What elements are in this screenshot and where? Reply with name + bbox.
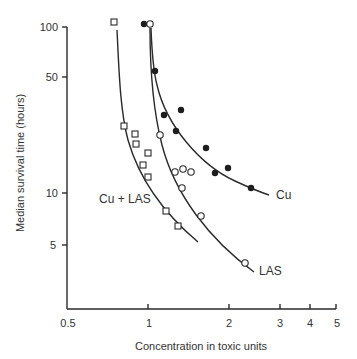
las-curve — [150, 28, 254, 272]
x-axis-title: Concentration in toxic units — [135, 340, 268, 352]
cu-las-label: Cu + LAS — [99, 192, 151, 206]
y-axis-title: Median survival time (hours) — [14, 94, 26, 232]
x-tick-label-2: 2 — [226, 317, 232, 329]
y-tick-label-50: 50 — [46, 71, 58, 83]
x-tick-label-5: 5 — [334, 317, 340, 329]
y-tick-label-100: 100 — [40, 21, 58, 33]
cu-points — [141, 21, 254, 191]
las-label: LAS — [259, 264, 282, 278]
y-tick-label-10: 10 — [46, 187, 58, 199]
x-ticks — [148, 304, 336, 309]
y-ticks — [62, 27, 67, 245]
x-tick-label-4: 4 — [307, 317, 313, 329]
x-tick-label-0.5: 0.5 — [60, 317, 75, 329]
cu-curve — [151, 28, 269, 195]
y-tick-label-5: 5 — [50, 239, 56, 251]
x-tick-label-3: 3 — [277, 317, 283, 329]
cu-label: Cu — [276, 188, 291, 202]
x-tick-label-1: 1 — [146, 317, 152, 329]
survival-chart: 100 50 10 5 0.5 1 2 3 4 5 Concentration … — [0, 0, 357, 359]
